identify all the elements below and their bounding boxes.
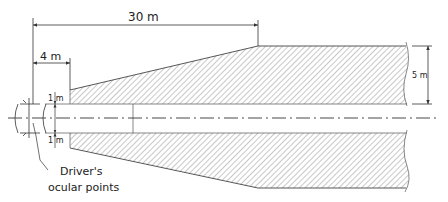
dim-width-label: 5 m bbox=[412, 71, 428, 80]
dim-offset-bottom: 1 m bbox=[48, 136, 64, 145]
dim-total-label: 30 m bbox=[128, 10, 159, 24]
caption-line-2: ocular points bbox=[48, 181, 120, 194]
upper-obstruction-zone bbox=[70, 42, 409, 106]
dim-offset-top: 1 m bbox=[48, 94, 64, 103]
lane bbox=[8, 104, 440, 133]
caption-leader-line bbox=[33, 123, 48, 170]
caption-line-1: Driver's bbox=[60, 165, 103, 178]
dim-near-label: 4 m bbox=[40, 50, 61, 63]
lower-obstruction-zone bbox=[70, 130, 409, 192]
visibility-diagram: 1 m 1 m 30 m 4 m 5 m Driver's ocular poi… bbox=[0, 0, 448, 202]
